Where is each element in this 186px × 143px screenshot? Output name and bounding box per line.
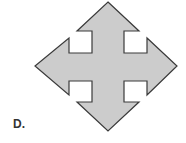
option-label: D. — [13, 117, 25, 131]
four-way-arrow-shape — [35, 2, 177, 131]
four-way-arrow-icon — [0, 0, 186, 143]
